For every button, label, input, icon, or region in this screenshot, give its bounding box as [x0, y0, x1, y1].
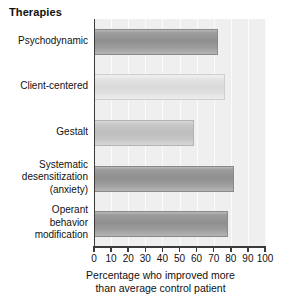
x-tick — [247, 247, 249, 252]
bar-slot — [95, 74, 266, 100]
category-label-line: modification — [35, 229, 88, 242]
category-label-2: Client-centered — [20, 80, 88, 93]
x-tick-label: 70 — [208, 253, 219, 264]
category-label-line: desensitization — [22, 171, 88, 184]
x-tick-label: 50 — [174, 253, 185, 264]
bar-slot — [95, 166, 266, 192]
x-axis-title: Percentage who improved more than averag… — [0, 269, 293, 295]
bar-systematic-desensitization-anxiety — [95, 166, 234, 192]
x-tick — [93, 247, 95, 252]
category-label-1: Psychodynamic — [18, 35, 88, 48]
plot-area — [94, 19, 266, 247]
x-tick — [179, 247, 181, 252]
x-tick — [145, 247, 147, 252]
category-label-line: behavior — [35, 217, 88, 230]
x-tick-label: 90 — [242, 253, 253, 264]
x-tick — [196, 247, 198, 252]
bar-chart-figure: Therapies Percentage who improved more t… — [0, 0, 293, 301]
bar-gestalt — [95, 120, 194, 146]
x-tick-label: 30 — [140, 253, 151, 264]
bar-client-centered — [95, 74, 225, 100]
x-tick-label: 40 — [157, 253, 168, 264]
category-label-line: Operant — [35, 204, 88, 217]
category-label-line: Systematic — [22, 159, 88, 172]
category-label-line: Gestalt — [56, 126, 88, 139]
x-tick — [127, 247, 129, 252]
x-tick — [162, 247, 164, 252]
x-tick — [213, 247, 215, 252]
x-tick-label: 10 — [106, 253, 117, 264]
category-label-line: Psychodynamic — [18, 35, 88, 48]
category-label-line: Client-centered — [20, 80, 88, 93]
x-tick-label: 60 — [191, 253, 202, 264]
bar-slot — [95, 211, 266, 237]
x-tick — [264, 247, 266, 252]
category-label-3: Gestalt — [56, 126, 88, 139]
bar-slot — [95, 29, 266, 55]
x-axis-title-line-2: than average control patient — [28, 282, 293, 295]
chart-title: Therapies — [9, 6, 62, 18]
x-tick-label: 20 — [123, 253, 134, 264]
category-label-4: Systematicdesensitization(anxiety) — [22, 159, 88, 197]
bar-psychodynamic — [95, 29, 218, 55]
category-label-5: Operantbehaviormodification — [35, 204, 88, 242]
x-tick-label: 80 — [225, 253, 236, 264]
x-tick — [230, 247, 232, 252]
x-tick-label: 0 — [91, 253, 97, 264]
x-axis-title-line-1: Percentage who improved more — [28, 269, 293, 282]
bar-slot — [95, 120, 266, 146]
category-label-line: (anxiety) — [22, 184, 88, 197]
bar-operant-behavior-modification — [95, 211, 228, 237]
x-tick — [110, 247, 112, 252]
x-tick-label: 100 — [257, 253, 274, 264]
